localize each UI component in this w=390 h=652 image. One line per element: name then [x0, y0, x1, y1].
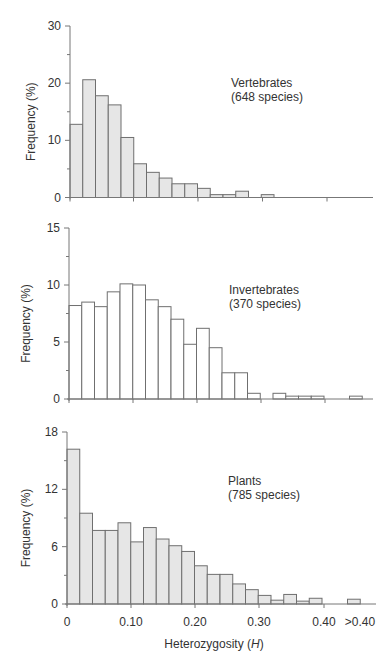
histogram-bar: [107, 292, 120, 399]
histogram-bar: [185, 184, 198, 198]
x-tick-label: 0.20: [183, 615, 207, 629]
histogram-bar: [182, 551, 195, 604]
histogram-bar: [70, 124, 83, 197]
histogram-bar: [246, 590, 259, 604]
histogram-bar: [195, 566, 208, 604]
histogram-bar: [248, 393, 261, 399]
x-tick-label: 0.10: [119, 615, 143, 629]
y-tick-label: 5: [53, 335, 60, 349]
histogram-bar: [95, 307, 108, 399]
histogram-bar: [171, 319, 184, 399]
y-tick-label: 10: [47, 278, 61, 292]
histogram-bar: [222, 373, 235, 399]
histogram-bar: [309, 598, 322, 604]
histogram-bar: [273, 393, 286, 399]
y-tick-label: 20: [48, 76, 62, 90]
histogram-bar: [184, 344, 197, 399]
histogram-bar: [80, 513, 93, 604]
y-tick-label: 6: [51, 540, 58, 554]
histogram-bar: [172, 184, 185, 198]
histogram-bar: [146, 300, 159, 399]
series-title: Invertebrates: [229, 283, 299, 297]
histogram-bar: [83, 80, 96, 198]
histogram-bar: [348, 599, 361, 604]
histogram-bar: [69, 306, 82, 399]
histogram-bar: [198, 188, 211, 197]
x-axis-label: Heterozygosity (H): [164, 637, 263, 651]
histogram-bar: [134, 164, 147, 198]
heterozygosity-figure: 0102030Frequency (%)Vertebrates(648 spec…: [0, 0, 390, 652]
series-title: Plants: [228, 474, 261, 488]
histogram-bar: [105, 530, 118, 604]
series-title: Vertebrates: [231, 76, 292, 90]
histogram-bar: [159, 178, 172, 197]
histogram-bar: [284, 594, 297, 604]
y-axis-label: Frequency (%): [19, 284, 33, 363]
y-tick-label: 18: [45, 425, 59, 439]
histogram-bar: [235, 373, 248, 399]
x-tick-label: >0.40: [345, 615, 376, 629]
histogram-bar: [169, 546, 182, 604]
y-tick-label: 0: [51, 597, 58, 611]
histogram-bar: [131, 542, 144, 604]
series-subtitle: (370 species): [229, 297, 301, 311]
histogram-bar: [96, 96, 109, 198]
histogram-bar: [220, 574, 233, 604]
x-tick-label: 0: [64, 615, 71, 629]
histogram-bar: [233, 584, 246, 604]
y-tick-label: 15: [47, 221, 61, 235]
x-tick-label: 0.40: [312, 615, 336, 629]
histogram-bar: [258, 595, 271, 604]
histogram-bar: [82, 302, 95, 399]
histogram-bar: [147, 172, 160, 197]
histogram-bar: [118, 523, 131, 604]
y-tick-label: 0: [54, 191, 61, 205]
histogram-bar: [133, 285, 146, 399]
histogram-bar: [158, 307, 171, 399]
histogram-plants: 061218Frequency (%)Plants(785 species)00…: [19, 425, 376, 651]
histogram-bar: [121, 137, 134, 197]
histogram-bar: [156, 539, 169, 604]
histogram-bar: [93, 530, 106, 604]
series-subtitle: (785 species): [228, 488, 300, 502]
histogram-bar: [271, 600, 284, 604]
y-tick-label: 0: [53, 392, 60, 406]
histogram-bar: [197, 328, 210, 399]
y-axis-label: Frequency (%): [19, 489, 33, 568]
y-tick-label: 10: [48, 133, 62, 147]
series-subtitle: (648 species): [231, 90, 303, 104]
histogram-bar: [67, 449, 80, 604]
histogram-bar: [120, 284, 133, 399]
histogram-bar: [207, 574, 220, 604]
histogram-bar: [209, 348, 222, 399]
histogram-invertebrates: 051015Frequency (%)Invertebrates(370 spe…: [19, 221, 373, 406]
x-tick-label: 0.30: [247, 615, 271, 629]
histogram-bar: [144, 528, 157, 604]
y-tick-label: 12: [45, 482, 59, 496]
histogram-vertebrates: 0102030Frequency (%)Vertebrates(648 spec…: [24, 19, 373, 205]
histogram-bar: [108, 105, 121, 198]
y-axis-label: Frequency (%): [24, 82, 38, 161]
histogram-bar: [236, 191, 249, 197]
y-tick-label: 30: [48, 19, 62, 33]
